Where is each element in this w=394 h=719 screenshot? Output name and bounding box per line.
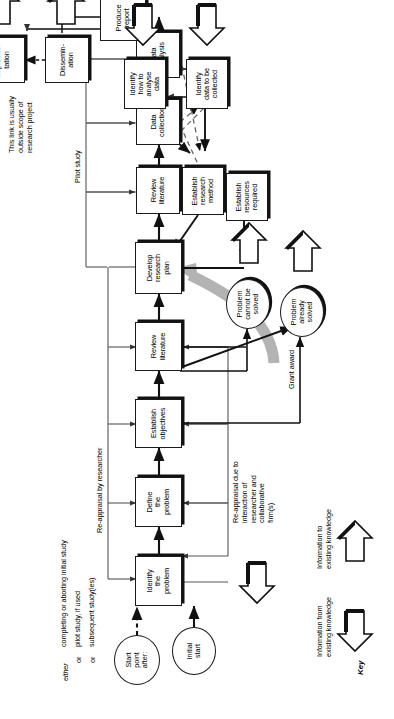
- input-arrow-identify-data: [186, 1, 228, 47]
- node-data-collection-label: Data collection: [150, 107, 166, 137]
- flowchart-canvas: Initial start Start point after: Identif…: [0, 0, 394, 719]
- label-pilot-study: Pilot study: [74, 150, 83, 183]
- key-icon-information-from: [334, 607, 376, 653]
- diagram-canvas-rotator: Initial start Start point after: Identif…: [0, 0, 394, 719]
- label-or-2: or: [89, 657, 98, 663]
- key-title: Key: [356, 661, 365, 675]
- node-problem-cannot-be-solved[interactable]: Problem cannot be solved: [226, 279, 270, 329]
- node-develop-research-plan[interactable]: Develop research plan: [135, 242, 182, 294]
- input-arrow-identify-how-analyse: [122, 1, 164, 47]
- label-link-note: This link is usually outside scope of re…: [8, 96, 34, 153]
- node-identify-data-label: Identify data to be collected: [195, 68, 219, 100]
- node-identify-how-to-analyse-data[interactable]: Identify how to analyse data: [124, 59, 166, 109]
- output-arrow-problem-already: [282, 227, 324, 275]
- node-identify-the-problem[interactable]: Identify the problem: [135, 556, 182, 606]
- node-establish-resources-required[interactable]: Establish resources required: [226, 173, 268, 221]
- node-establish-objectives-label: Establish objectives: [150, 408, 166, 440]
- node-define-the-problem[interactable]: Define the problem: [135, 477, 182, 527]
- node-initial-start-label: Initial start: [186, 643, 202, 660]
- node-establish-research-method[interactable]: Establish research method: [182, 167, 224, 215]
- node-identify-how-analyse-label: Identify how to analyse data: [129, 72, 162, 97]
- label-reappraisal-by-researcher: Re-appraisal by researcher: [96, 448, 105, 533]
- label-branch-subsequent: subsequent study(ies): [88, 578, 97, 647]
- node-define-the-problem-label: Define the problem: [146, 489, 170, 515]
- node-identify-data-to-be-collected[interactable]: Identify data to be collected: [186, 59, 228, 109]
- label-or-1: or: [75, 657, 84, 663]
- node-identify-the-problem-label: Identify the problem: [146, 568, 170, 594]
- node-problem-already-solved[interactable]: Problem already solved: [280, 287, 324, 337]
- node-dissemination-label: Dissemin- ation: [59, 44, 75, 76]
- node-dissemination[interactable]: Dissemin- ation: [45, 37, 89, 83]
- key-label-information-to: Information to existing knowledge: [316, 509, 334, 569]
- node-initial-start[interactable]: Initial start: [172, 627, 216, 675]
- node-establish-research-method-label: Establish research method: [191, 176, 215, 205]
- node-develop-research-plan-label: Develop research plan: [146, 254, 170, 282]
- node-establish-resources-required-label: Establish resources required: [235, 181, 259, 213]
- node-start-point-after-label: Start point after:: [125, 652, 148, 668]
- label-branch-completing: completing or aborting initial study: [60, 540, 69, 647]
- key-block: Key Information from existing knowledge …: [316, 395, 382, 675]
- node-problem-already-label: Problem already solved: [290, 299, 313, 326]
- node-implementation[interactable]: Implemen- tation: [0, 37, 25, 83]
- node-review-literature-1-label: Review literature: [150, 333, 166, 361]
- node-implementation-label: Implemen- tation: [0, 43, 11, 77]
- input-arrow-identify-problem: [236, 559, 278, 605]
- node-establish-objectives[interactable]: Establish objectives: [135, 399, 182, 448]
- label-reappraisal-interaction: Re-appraisal due to interaction of resea…: [232, 461, 276, 523]
- node-review-literature-2[interactable]: Review literature: [136, 167, 180, 214]
- output-arrow-problem-cannot: [228, 219, 270, 267]
- output-arrow-dissemination: [44, 0, 88, 27]
- label-branch-pilot: pilot study, if used: [74, 591, 83, 647]
- output-arrow-implementation: [0, 0, 23, 27]
- label-either: either: [62, 663, 71, 681]
- node-problem-cannot-label: Problem cannot be solved: [236, 288, 259, 320]
- label-grant-award: Grant award: [288, 350, 297, 389]
- node-start-point-after[interactable]: Start point after:: [114, 635, 160, 685]
- key-label-information-from: Information from existing knowledge: [316, 597, 334, 657]
- node-review-literature-1[interactable]: Review literature: [135, 322, 182, 371]
- node-review-literature-2-label: Review literature: [150, 177, 166, 205]
- key-icon-information-to: [334, 519, 376, 565]
